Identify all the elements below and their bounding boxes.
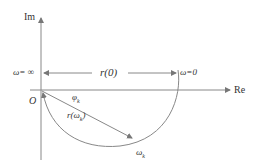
origin-label: O [29, 96, 36, 106]
phi-sub: k [77, 98, 80, 104]
r-omega-k-label: r(ωk) [67, 111, 86, 122]
omega-zero-label: ω=0 [180, 68, 197, 77]
r-omega-close: ) [83, 110, 86, 120]
phi-k-label: φk [72, 93, 80, 104]
r-omega-base: r(ω [67, 110, 80, 120]
r0-label: r(0) [100, 67, 117, 78]
diagram-canvas [0, 0, 257, 164]
im-axis-label: Im [24, 12, 35, 22]
re-axis-label: Re [234, 85, 245, 95]
radius-vector [42, 91, 132, 138]
omega-k-sub: k [142, 153, 145, 159]
omega-k-label: ωk [136, 148, 145, 159]
nyquist-curve [43, 70, 179, 147]
omega-infinity-label: ω= ∞ [13, 68, 34, 77]
